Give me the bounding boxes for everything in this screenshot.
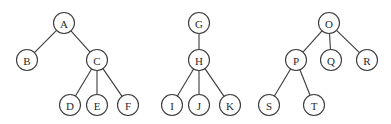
node-h: H xyxy=(189,50,210,71)
node-q: Q xyxy=(321,50,342,71)
node-label: O xyxy=(325,18,333,30)
nodes-layer: ABCDEFGHIJKOPQRST xyxy=(17,13,378,116)
node-label: A xyxy=(60,18,68,30)
node-label: C xyxy=(93,55,100,67)
node-s: S xyxy=(259,95,280,116)
node-i: I xyxy=(162,95,183,116)
node-d: D xyxy=(60,95,81,116)
edge-h-k xyxy=(205,69,224,97)
node-f: F xyxy=(118,95,139,116)
node-o: O xyxy=(319,13,340,34)
edge-o-p xyxy=(303,31,322,52)
node-g: G xyxy=(189,13,210,34)
tree-forest-diagram: ABCDEFGHIJKOPQRST xyxy=(0,0,391,124)
node-k: K xyxy=(220,95,241,116)
node-label: F xyxy=(125,100,131,112)
node-r: R xyxy=(357,50,378,71)
edge-a-c xyxy=(71,31,90,52)
node-label: D xyxy=(66,100,74,112)
node-p: P xyxy=(286,50,307,71)
edge-a-b xyxy=(34,30,56,52)
edge-p-t xyxy=(300,70,310,96)
node-label: S xyxy=(266,100,272,112)
edge-c-f xyxy=(103,69,122,97)
edge-o-q xyxy=(330,33,331,49)
node-label: R xyxy=(363,55,371,67)
node-label: P xyxy=(293,55,299,67)
node-label: T xyxy=(311,100,318,112)
edge-p-s xyxy=(274,69,290,96)
node-a: A xyxy=(54,13,75,34)
node-label: E xyxy=(94,100,101,112)
node-b: B xyxy=(17,50,38,71)
node-c: C xyxy=(87,50,108,71)
node-e: E xyxy=(87,95,108,116)
node-label: G xyxy=(195,18,203,30)
edge-o-r xyxy=(337,30,360,52)
tree-a xyxy=(34,30,122,96)
node-label: Q xyxy=(327,55,335,67)
edge-h-i xyxy=(177,69,193,96)
node-j: J xyxy=(189,95,210,116)
node-label: J xyxy=(197,100,202,112)
node-label: B xyxy=(23,55,30,67)
node-t: T xyxy=(304,95,325,116)
node-label: I xyxy=(170,100,174,112)
edge-c-d xyxy=(75,69,91,96)
node-label: H xyxy=(195,55,203,67)
node-label: K xyxy=(226,100,234,112)
